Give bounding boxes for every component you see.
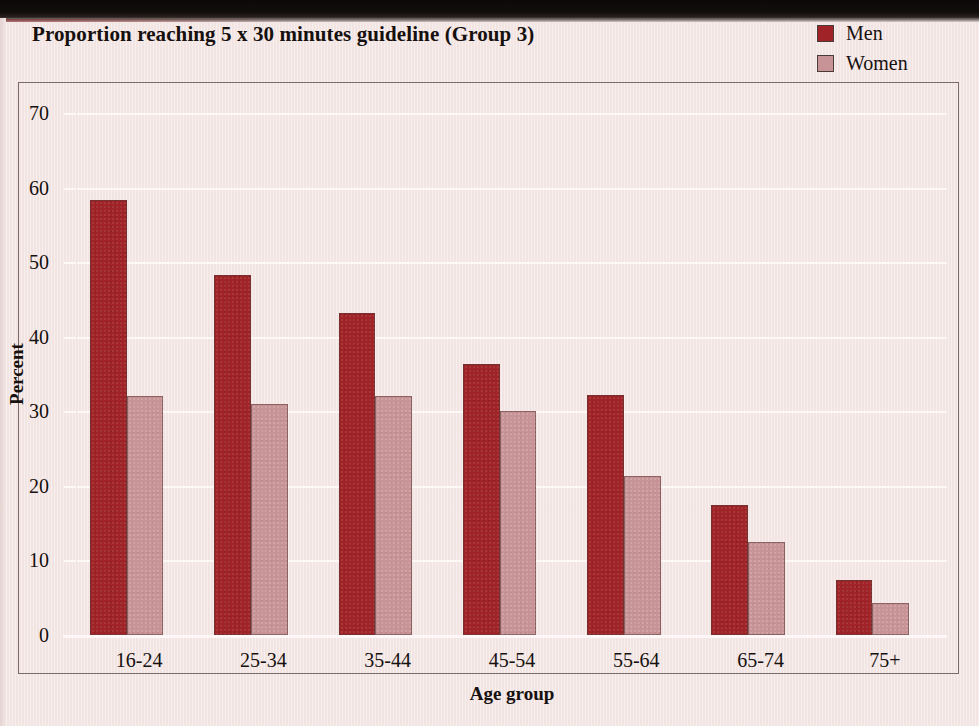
bar-group: 75+ (823, 113, 947, 635)
plot-area: Percent Age group 01020304050607016-2425… (77, 113, 947, 635)
bar-women-16-24 (127, 396, 164, 635)
bar-women-45-54 (500, 411, 537, 635)
bar-men-25-34 (214, 275, 251, 635)
x-tick-label: 45-54 (450, 649, 574, 672)
y-tick-label: 70 (5, 102, 49, 125)
bar-women-35-44 (375, 396, 412, 635)
page-title: Proportion reaching 5 x 30 minutes guide… (32, 22, 534, 47)
bar-group: 65-74 (698, 113, 822, 635)
bar-group: 35-44 (326, 113, 450, 635)
x-tick-label: 25-34 (201, 649, 325, 672)
y-tick-mark (64, 188, 76, 190)
legend-item-men: Men (817, 18, 957, 48)
bar-men-35-44 (339, 313, 376, 635)
y-axis-title: Percent (6, 343, 28, 405)
bar-group: 55-64 (574, 113, 698, 635)
y-tick-label: 40 (5, 325, 49, 348)
y-tick-label: 50 (5, 251, 49, 274)
bar-women-75+ (872, 603, 909, 635)
y-tick-mark (64, 486, 76, 488)
bar-men-16-24 (90, 200, 127, 635)
x-tick-label: 35-44 (326, 649, 450, 672)
x-tick-label: 65-74 (698, 649, 822, 672)
bar-group: 16-24 (77, 113, 201, 635)
bar-women-65-74 (748, 542, 785, 635)
x-tick-label: 16-24 (77, 649, 201, 672)
legend-label-men: Men (846, 22, 883, 45)
legend-swatch-women (817, 55, 834, 72)
bar-group: 25-34 (201, 113, 325, 635)
y-tick-mark (64, 262, 76, 264)
y-tick-label: 30 (5, 400, 49, 423)
bar-women-55-64 (624, 476, 661, 635)
y-tick-mark (64, 337, 76, 339)
legend-item-women: Women (817, 48, 957, 78)
bar-men-55-64 (587, 395, 624, 635)
x-tick-label: 55-64 (574, 649, 698, 672)
y-tick-label: 0 (5, 624, 49, 647)
chart-legend: Men Women (817, 18, 957, 78)
bar-group: 45-54 (450, 113, 574, 635)
legend-swatch-men (817, 25, 834, 42)
y-tick-label: 10 (5, 549, 49, 572)
chart-page: Proportion reaching 5 x 30 minutes guide… (0, 0, 979, 726)
y-tick-label: 60 (5, 176, 49, 199)
legend-label-women: Women (846, 52, 908, 75)
y-tick-mark (64, 560, 76, 562)
bar-men-65-74 (711, 505, 748, 635)
bar-men-75+ (836, 580, 873, 635)
x-axis-baseline (63, 635, 947, 638)
y-tick-mark (64, 411, 76, 413)
x-tick-label: 75+ (823, 649, 947, 672)
y-tick-mark (64, 113, 76, 115)
x-axis-title: Age group (77, 683, 947, 705)
y-tick-label: 20 (5, 474, 49, 497)
bar-women-25-34 (251, 404, 288, 635)
bar-men-45-54 (463, 364, 500, 635)
